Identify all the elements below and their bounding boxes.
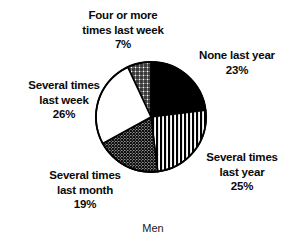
chart-caption: Men [118,222,188,235]
pie-label-four-or-more-last-week: Four or more times last week 7% [48,8,198,52]
pie-label-value: 7% [48,37,198,52]
pie-label-value: 19% [20,197,150,212]
pie-label-value: 23% [178,63,296,78]
pie-label-line-1: Four or more [48,8,198,23]
pie-label-line-1: Several times [186,150,298,165]
pie-label-none-last-year: None last year 23% [178,48,296,77]
pie-label-line-1: None last year [178,48,296,63]
pie-label-value: 25% [186,179,298,194]
pie-label-line-1: Several times [8,78,120,93]
pie-label-line-2: last year [186,165,298,180]
pie-label-line-2: last week [8,93,120,108]
pie-label-value: 26% [8,107,120,122]
pie-chart-figure: Four or more times last week 7% None las… [0,0,299,248]
pie-label-line-1: Several times [20,168,150,183]
pie-label-several-times-last-year: Several times last year 25% [186,150,298,194]
pie-label-several-times-last-week: Several times last week 26% [8,78,120,122]
pie-label-several-times-last-month: Several times last month 19% [20,168,150,212]
pie-label-line-2: times last week [48,23,198,38]
pie-label-line-2: last month [20,183,150,198]
